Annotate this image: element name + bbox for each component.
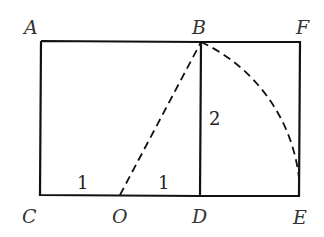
- length-label-bd: 2: [209, 108, 220, 129]
- golden-rectangle-diagram: A B F C O D E 1 1 2: [0, 0, 324, 237]
- point-label-e: E: [292, 206, 307, 228]
- point-label-a: A: [22, 16, 38, 38]
- length-label-co: 1: [77, 172, 88, 193]
- length-label-od: 1: [158, 172, 169, 193]
- point-label-f: F: [295, 16, 310, 38]
- square-acdb: [40, 41, 201, 196]
- point-label-c: C: [22, 205, 37, 227]
- point-label-o: O: [112, 205, 128, 227]
- point-label-d: D: [191, 205, 207, 227]
- point-label-b: B: [191, 16, 206, 38]
